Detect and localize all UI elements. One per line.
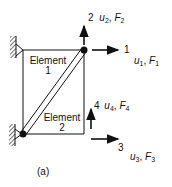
dof-1-index: 1 xyxy=(124,45,130,55)
figure-caption: (a) xyxy=(37,167,49,177)
element-2-label: Element 2 xyxy=(40,113,84,133)
dof-4-label: 4 u4, F4 xyxy=(94,101,129,114)
node-top-right xyxy=(81,47,88,54)
dof-2-label: 2 u2, F2 xyxy=(88,13,124,26)
node-bottom-left xyxy=(20,131,27,138)
element-1-label: Element 1 xyxy=(26,56,70,76)
top-wall-support xyxy=(10,36,23,58)
dof-3-index: 3 xyxy=(118,143,124,153)
dof-3-label: u3, F3 xyxy=(130,152,155,165)
dof-1-label: u1, F1 xyxy=(134,56,159,69)
